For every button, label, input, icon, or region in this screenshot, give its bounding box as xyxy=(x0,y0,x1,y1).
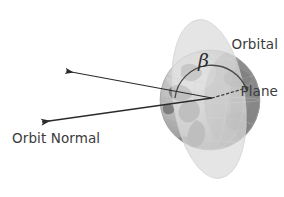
orbit-normal-label: Orbit Normal xyxy=(12,131,100,147)
orbital-plane-label-line2: Plane xyxy=(231,84,278,100)
orbital-plane-label-line1: Orbital xyxy=(231,37,278,53)
orbital-plane-label: Orbital Plane xyxy=(231,6,278,130)
orbital-beta-angle-diagram: Orbital Plane Orbit Normal β xyxy=(0,0,284,197)
beta-angle-symbol: β xyxy=(198,49,209,71)
